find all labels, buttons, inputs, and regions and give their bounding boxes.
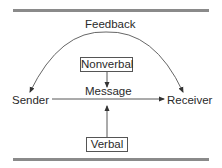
message-label: Message <box>85 85 132 98</box>
feedback-label: Feedback <box>85 18 136 31</box>
nonverbal-label: Nonverbal <box>81 58 133 70</box>
bottom-rule <box>13 158 209 161</box>
nonverbal-box: Nonverbal <box>80 57 133 72</box>
sender-label: Sender <box>12 94 49 107</box>
verbal-box: Verbal <box>86 137 128 152</box>
verbal-label: Verbal <box>91 138 124 150</box>
receiver-label: Receiver <box>167 94 212 107</box>
